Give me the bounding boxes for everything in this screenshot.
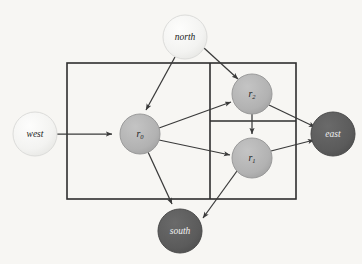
- edge-r0-to-r1: [159, 140, 230, 155]
- node-south[interactable]: south: [158, 209, 202, 253]
- edge-group: [57, 48, 315, 218]
- node-west[interactable]: west: [13, 112, 57, 156]
- node-r2[interactable]: r2: [232, 74, 272, 114]
- edge-north-to-r0: [146, 57, 175, 110]
- node-r2-circle[interactable]: [232, 74, 272, 114]
- node-west-circle[interactable]: [13, 112, 57, 156]
- graph-canvas: north west r0 r2 r1: [0, 0, 362, 264]
- node-r0-circle[interactable]: [120, 114, 160, 154]
- edge-r1-to-east: [271, 140, 314, 151]
- node-east-circle[interactable]: [311, 112, 355, 156]
- node-east[interactable]: east: [311, 112, 355, 156]
- node-r0[interactable]: r0: [120, 114, 160, 154]
- node-north[interactable]: north: [163, 15, 207, 59]
- diagram-page: north west r0 r2 r1: [0, 0, 362, 264]
- edge-r0-to-r2: [159, 102, 231, 128]
- node-south-circle[interactable]: [158, 209, 202, 253]
- node-north-circle[interactable]: [163, 15, 207, 59]
- edge-r0-to-south: [148, 152, 172, 204]
- node-r1[interactable]: r1: [232, 138, 272, 178]
- node-r1-circle[interactable]: [232, 138, 272, 178]
- edge-r1-to-south: [203, 171, 237, 218]
- edge-r2-to-east: [269, 105, 315, 127]
